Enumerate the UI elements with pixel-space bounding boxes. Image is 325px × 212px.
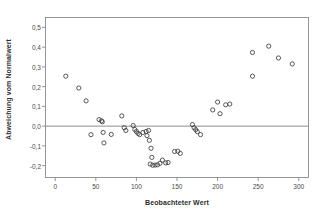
data-point — [198, 133, 202, 137]
data-point — [77, 86, 81, 90]
y-tick-label: 0,3 — [14, 63, 41, 70]
y-axis-title: Abweichung vom Normalwert — [5, 39, 12, 140]
x-tick-label: 200 — [212, 183, 223, 190]
data-point — [276, 56, 280, 60]
x-tick-label: 100 — [131, 183, 142, 190]
x-tick-label: 250 — [253, 183, 264, 190]
data-point — [89, 133, 93, 137]
y-tick-label: 0,2 — [14, 83, 41, 90]
x-tick-label: 50 — [92, 183, 99, 190]
data-points — [64, 44, 295, 167]
data-point — [250, 50, 254, 54]
data-point — [84, 99, 88, 103]
data-point — [215, 100, 219, 104]
y-tick-label: 0,0 — [14, 123, 41, 130]
y-tick-label: -0,2 — [14, 162, 41, 169]
data-point — [145, 134, 149, 138]
data-point — [224, 103, 228, 107]
data-point — [64, 74, 68, 78]
data-point — [149, 146, 153, 150]
data-point — [228, 102, 232, 106]
x-axis-title-container: Beobachteter Wert — [45, 191, 309, 209]
data-point — [150, 155, 154, 159]
data-point — [218, 112, 222, 116]
x-tick-label: 0 — [53, 183, 57, 190]
data-point — [267, 44, 271, 48]
data-point — [211, 108, 215, 112]
y-tick-label: 0,1 — [14, 103, 41, 110]
x-axis-title: Beobachteter Wert — [145, 199, 209, 206]
data-point — [290, 62, 294, 66]
plot-area — [0, 0, 325, 212]
y-tick-label: 0,5 — [14, 24, 41, 31]
data-point — [250, 74, 254, 78]
y-tick-label: 0,4 — [14, 44, 41, 51]
data-point — [101, 130, 105, 134]
data-point — [120, 114, 124, 118]
data-point — [109, 132, 113, 136]
x-tick-label: 150 — [172, 183, 183, 190]
data-point — [147, 138, 151, 142]
y-tick-label: -0,1 — [14, 142, 41, 149]
scatter-chart-figure: Abweichung vom Normalwert Beobachteter W… — [0, 0, 325, 212]
x-tick-label: 300 — [293, 183, 304, 190]
data-point — [102, 141, 106, 145]
axis-ticks — [42, 27, 299, 181]
